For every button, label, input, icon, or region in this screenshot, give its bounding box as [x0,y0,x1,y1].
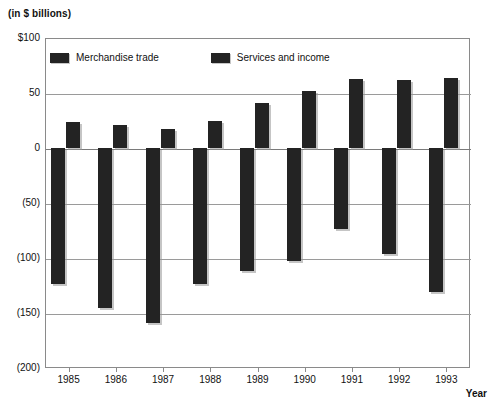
bar [382,148,396,254]
x-axis-tick-label: 1985 [46,374,92,385]
x-axis-tick [258,368,259,372]
legend-item-merchandise-trade: Merchandise trade [50,52,159,63]
bar [66,122,80,148]
bar [444,78,458,148]
y-axis-tick-label: 0 [0,142,40,153]
bar [113,125,127,148]
x-axis-tick [446,368,447,372]
x-axis-tick [352,368,353,372]
bar [255,103,269,148]
bar [302,91,316,148]
legend-swatch-icon [50,53,69,63]
bar [51,148,65,284]
x-axis-tick-label: 1990 [282,374,328,385]
x-axis-tick [69,368,70,372]
y-axis-tick-label: $100 [0,32,40,43]
bar [240,148,254,271]
bar [397,80,411,148]
x-axis-tick [210,368,211,372]
chart-unit-note: (in $ billions) [8,8,71,19]
x-axis-tick [305,368,306,372]
bar [208,121,222,149]
bar [429,148,443,292]
x-axis-tick-label: 1992 [376,374,422,385]
y-axis-tick-label: (50) [0,197,40,208]
x-axis-tick [116,368,117,372]
x-axis-tick-label: 1988 [187,374,233,385]
y-axis-tick-label: 50 [0,87,40,98]
bar [146,148,160,323]
x-axis-title: Year [466,388,487,399]
legend-label: Merchandise trade [76,52,159,63]
x-axis-tick [163,368,164,372]
legend-label: Services and income [237,52,330,63]
bar [287,148,301,261]
chart-container: (in $ billions) $100500(50)(100)(150)(20… [0,0,497,404]
y-axis-tick-label: (150) [0,307,40,318]
bar [98,148,112,308]
x-axis-tick-label: 1991 [329,374,375,385]
x-axis-tick-label: 1987 [140,374,186,385]
gridline [46,314,471,315]
y-axis-tick-label: (100) [0,252,40,263]
legend-item-services-and-income: Services and income [211,52,330,63]
x-axis-tick [399,368,400,372]
bar [161,129,175,148]
x-axis-tick-label: 1993 [423,374,469,385]
bar [349,79,363,148]
legend-swatch-icon [211,53,230,63]
x-axis-tick-label: 1986 [93,374,139,385]
bar [193,148,207,284]
y-axis-tick-label: (200) [0,362,40,373]
x-axis-tick-label: 1989 [235,374,281,385]
bar [334,148,348,229]
chart-legend: Merchandise trade Services and income [50,52,330,63]
